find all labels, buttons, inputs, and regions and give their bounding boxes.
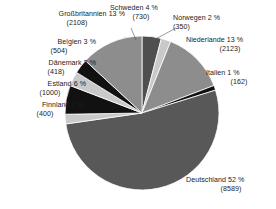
- slice-label-finnland-name: Finnland 2 %: [6, 101, 84, 110]
- slice-label-finnland: Finnland 2 % (400): [6, 101, 84, 120]
- slice-label-deutschland-value: (8589): [186, 185, 276, 194]
- slice-label-norwegen-name: Norwegen 2 %: [173, 14, 243, 23]
- slice-label-niederlande-value: (2123): [186, 45, 274, 54]
- slice-label-deutschland-name: Deutschland 52 %: [186, 176, 276, 185]
- slice-label-finnland-value: (400): [6, 110, 84, 119]
- slice-label-italien: Italien 1 % (162): [206, 69, 272, 88]
- slice-label-estland-name: Estland 6 %: [14, 80, 86, 89]
- slice-label-schweden-name: Schweden 4 %: [110, 4, 172, 13]
- slice-label-belgien-name: Belgien 3 %: [22, 38, 96, 47]
- pie-chart: Großbritannien 13 % (2108) Belgien 3 % (…: [0, 0, 276, 209]
- slice-label-norwegen: Norwegen 2 % (350): [173, 14, 243, 33]
- slice-label-daenemark: Dänemark 3 % (418): [16, 59, 96, 78]
- slice-label-schweden: Schweden 4 % (730): [110, 4, 172, 23]
- slice-label-daenemark-name: Dänemark 3 %: [16, 59, 96, 68]
- slice-label-niederlande-name: Niederlande 13 %: [186, 36, 274, 45]
- slice-label-belgien-value: (504): [22, 47, 96, 56]
- slice-label-deutschland: Deutschland 52 % (8589): [186, 176, 276, 195]
- slice-label-italien-name: Italien 1 %: [206, 69, 272, 78]
- slice-label-daenemark-value: (418): [16, 68, 96, 77]
- slice-label-italien-value: (162): [206, 78, 272, 87]
- slice-label-norwegen-value: (350): [173, 23, 243, 32]
- slice-label-estland: Estland 6 % (1000): [14, 80, 86, 99]
- slice-label-schweden-value: (730): [110, 13, 172, 22]
- slice-label-estland-value: (1000): [14, 89, 86, 98]
- slice-label-niederlande: Niederlande 13 % (2123): [186, 36, 274, 55]
- slice-label-belgien: Belgien 3 % (504): [22, 38, 96, 57]
